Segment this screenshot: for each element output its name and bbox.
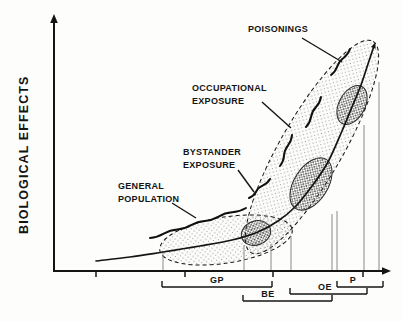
figure-page: BIOLOGICAL EFFECTS POISONINGS OCCUPATION… (0, 0, 403, 322)
x-axis-arrowhead (382, 267, 391, 275)
bracket-label-gp: GP (210, 275, 224, 285)
bracket-label-be: BE (261, 289, 274, 299)
leader-line (302, 38, 342, 62)
poisonings-label: POISONINGS (248, 24, 308, 34)
general-population-label-line1: GENERAL (118, 181, 164, 191)
leader-line (172, 203, 196, 218)
bystander-exposure-label-line2: EXPOSURE (183, 160, 235, 170)
bracket-label-p: P (350, 275, 356, 285)
occupational-exposure-label-line2: EXPOSURE (192, 96, 244, 106)
y-axis-label: BIOLOGICAL EFFECTS (17, 76, 31, 234)
leader-line (238, 170, 254, 192)
exposure-effects-diagram: BIOLOGICAL EFFECTS POISONINGS OCCUPATION… (0, 0, 403, 322)
bystander-exposure-label-line1: BYSTANDER (183, 147, 241, 157)
occupational-exposure-label-line1: OCCUPATIONAL (192, 83, 267, 93)
bracket-label-oe: OE (318, 282, 332, 292)
plot-geometry (50, 14, 400, 301)
y-axis-arrowhead (50, 14, 58, 23)
leader-line (262, 102, 291, 128)
general-population-label-line2: POPULATION (118, 194, 179, 204)
